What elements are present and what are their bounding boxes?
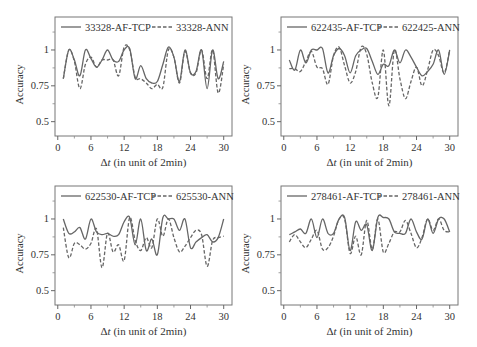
y-tick-label: 0.75: [257, 249, 275, 260]
x-tick-label: 6: [314, 311, 319, 322]
x-tick-label: 24: [411, 142, 422, 153]
y-axis-label: Accuracy: [240, 64, 251, 105]
y-tick-label: 0.75: [31, 80, 49, 91]
x-tick-label: 6: [314, 142, 319, 153]
plot-frame: [281, 17, 458, 136]
y-tick-label: 0.5: [36, 285, 49, 296]
x-tick-label: 24: [185, 311, 196, 322]
y-tick-label: 0.5: [262, 285, 275, 296]
delta-symbol: Δ: [101, 325, 108, 337]
legend-label-aftcp: 278461-AF-TCP: [311, 191, 382, 202]
y-axis-label: Accuracy: [240, 233, 251, 274]
subplot-bottom-right: 0.50.7510612182430AccuracyΔt (in unit of…: [240, 186, 460, 338]
subplot-top-right: 0.50.7510612182430AccuracyΔt (in unit of…: [240, 17, 460, 169]
legend-label-ann: 622425-ANN: [402, 22, 460, 33]
x-tick-label: 30: [444, 142, 455, 153]
x-tick-label: 18: [378, 142, 389, 153]
delta-symbol: Δ: [327, 325, 334, 337]
x-axis-unit: (in unit of 2min): [111, 156, 187, 169]
x-tick-label: 18: [378, 311, 389, 322]
y-tick-label: 1: [44, 213, 49, 224]
y-tick-label: 1: [270, 44, 275, 55]
figure: 0.50.7510612182430AccuracyΔt (in unit of…: [0, 0, 477, 347]
y-axis-label: Accuracy: [14, 233, 25, 274]
y-tick-label: 0.75: [31, 249, 49, 260]
delta-symbol: Δ: [101, 156, 108, 168]
x-axis-unit: (in unit of 2min): [111, 325, 187, 338]
delta-symbol: Δ: [327, 156, 334, 168]
x-tick-label: 0: [55, 142, 60, 153]
x-tick-label: 30: [218, 311, 229, 322]
y-tick-label: 0.75: [257, 80, 275, 91]
x-tick-label: 0: [55, 311, 60, 322]
legend-label-aftcp: 33328-AF-TCP: [85, 22, 151, 33]
x-tick-label: 24: [185, 142, 196, 153]
legend-label-aftcp: 622435-AF-TCP: [311, 22, 382, 33]
x-axis-label: Δt (in unit of 2min): [327, 325, 413, 338]
y-tick-label: 0.5: [36, 116, 49, 127]
legend-label-aftcp: 622530-AF-TCP: [85, 191, 156, 202]
legend-label-ann: 278461-ANN: [402, 191, 460, 202]
x-tick-label: 30: [218, 142, 229, 153]
x-tick-label: 24: [411, 311, 422, 322]
x-axis-label: Δt (in unit of 2min): [327, 156, 413, 169]
x-tick-label: 6: [88, 311, 93, 322]
y-tick-label: 1: [44, 44, 49, 55]
subplot-bottom-left: 0.50.7510612182430AccuracyΔt (in unit of…: [14, 186, 234, 338]
x-tick-label: 12: [119, 311, 130, 322]
x-tick-label: 12: [345, 142, 356, 153]
x-axis-unit: (in unit of 2min): [337, 156, 413, 169]
x-axis-label: Δt (in unit of 2min): [101, 325, 187, 338]
y-tick-label: 1: [270, 213, 275, 224]
x-axis-label: Δt (in unit of 2min): [101, 156, 187, 169]
legend-label-ann: 33328-ANN: [176, 22, 229, 33]
y-tick-label: 0.5: [262, 116, 275, 127]
subplot-top-left: 0.50.7510612182430AccuracyΔt (in unit of…: [14, 17, 232, 169]
y-axis-label: Accuracy: [14, 64, 25, 105]
x-tick-label: 6: [88, 142, 93, 153]
x-axis-unit: (in unit of 2min): [337, 325, 413, 338]
x-tick-label: 12: [345, 311, 356, 322]
x-tick-label: 30: [444, 311, 455, 322]
x-tick-label: 18: [152, 142, 163, 153]
x-tick-label: 18: [152, 311, 163, 322]
x-tick-label: 0: [281, 311, 286, 322]
x-tick-label: 0: [281, 142, 286, 153]
legend-label-ann: 625530-ANN: [176, 191, 234, 202]
x-tick-label: 12: [119, 142, 130, 153]
